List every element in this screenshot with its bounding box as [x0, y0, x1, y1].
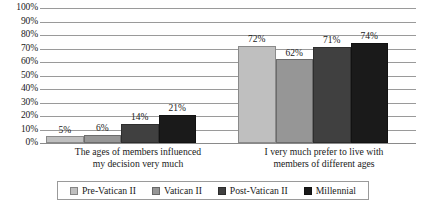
category-label-2-line-1: I very much prefer to live with [226, 146, 422, 158]
bar-post-vatican-ii-g1[interactable] [121, 124, 159, 143]
legend-label-pre-vatican-ii: Pre-Vatican II [82, 186, 136, 196]
bar-value-post-vatican-ii-g2: 71% [323, 35, 340, 45]
y-tick-20: 20% [0, 111, 38, 121]
bar-vatican-ii-g2[interactable] [276, 59, 314, 143]
y-tick-60: 60% [0, 57, 38, 67]
bar-value-vatican-ii-g2: 62% [286, 48, 303, 58]
legend-label-vatican-ii: Vatican II [164, 186, 202, 196]
legend: Pre-Vatican II Vatican II Post-Vatican I… [57, 181, 369, 200]
bar-chart: 100% 90% 80% 70% 60% 50% 40% 30% 20% 10%… [0, 0, 425, 209]
y-tick-50: 50% [0, 71, 38, 81]
bar-pre-vatican-ii-g1[interactable] [46, 136, 84, 143]
y-tick-30: 30% [0, 98, 38, 108]
legend-label-post-vatican-ii: Post-Vatican II [230, 186, 288, 196]
y-tick-70: 70% [0, 44, 38, 54]
category-label-2: I very much prefer to live with members … [226, 146, 422, 170]
legend-swatch-icon-vatican-ii [152, 187, 160, 195]
legend-label-millennial: Millennial [316, 186, 356, 196]
y-tick-0: 0% [0, 138, 38, 148]
bar-post-vatican-ii-g2[interactable] [313, 47, 351, 143]
bar-value-millennial-g1: 21% [169, 103, 186, 113]
legend-item-vatican-ii[interactable]: Vatican II [152, 186, 202, 196]
bar-millennial-g1[interactable] [159, 115, 197, 143]
bar-slot: 21% [159, 8, 197, 143]
legend-item-millennial[interactable]: Millennial [304, 186, 356, 196]
legend-swatch-icon-millennial [304, 187, 312, 195]
bar-slot: 62% [276, 8, 314, 143]
y-tick-10: 10% [0, 125, 38, 135]
legend-item-pre-vatican-ii[interactable]: Pre-Vatican II [70, 186, 136, 196]
bar-value-post-vatican-ii-g1: 14% [131, 112, 148, 122]
gridline-baseline [40, 143, 416, 144]
plot-area: 5% 6% 14% 21% [40, 8, 416, 143]
bar-value-pre-vatican-ii-g2: 72% [248, 34, 265, 44]
bar-vatican-ii-g1[interactable] [84, 135, 122, 143]
bar-pre-vatican-ii-g2[interactable] [238, 46, 276, 143]
bar-slot: 72% [238, 8, 276, 143]
category-label-2-line-2: members of different ages [226, 158, 422, 170]
category-label-1-line-2: my decision very much [40, 158, 236, 170]
category-label-1-line-1: The ages of members influenced [40, 146, 236, 158]
bar-group-ages-influenced-decision: 5% 6% 14% 21% [46, 8, 196, 143]
y-tick-100: 100% [0, 3, 38, 13]
legend-swatch-icon-pre-vatican-ii [70, 187, 78, 195]
x-axis-category-labels: The ages of members influenced my decisi… [40, 146, 416, 176]
bar-group-prefer-different-ages: 72% 62% 71% 74% [238, 8, 388, 143]
bar-slot: 71% [313, 8, 351, 143]
y-tick-40: 40% [0, 84, 38, 94]
bar-slot: 6% [84, 8, 122, 143]
y-tick-90: 90% [0, 17, 38, 27]
legend-item-post-vatican-ii[interactable]: Post-Vatican II [218, 186, 288, 196]
bar-slot: 74% [351, 8, 389, 143]
category-label-1: The ages of members influenced my decisi… [40, 146, 236, 170]
bar-value-millennial-g2: 74% [361, 31, 378, 41]
bar-value-vatican-ii-g1: 6% [96, 123, 109, 133]
y-axis: 100% 90% 80% 70% 60% 50% 40% 30% 20% 10%… [0, 0, 38, 150]
bar-value-pre-vatican-ii-g1: 5% [58, 125, 71, 135]
y-tick-80: 80% [0, 30, 38, 40]
bar-millennial-g2[interactable] [351, 43, 389, 143]
legend-swatch-icon-post-vatican-ii [218, 187, 226, 195]
bar-slot: 14% [121, 8, 159, 143]
bar-slot: 5% [46, 8, 84, 143]
bar-groups: 5% 6% 14% 21% [40, 8, 416, 143]
